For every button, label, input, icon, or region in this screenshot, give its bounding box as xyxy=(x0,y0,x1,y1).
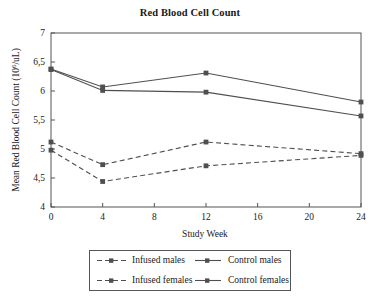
chart-figure: Red Blood Cell Count 04812162024 44,555,… xyxy=(0,0,380,302)
y-axis-title: Mean Red Blood Cell Count (106/uL) xyxy=(10,48,22,192)
svg-text:20: 20 xyxy=(305,212,315,222)
legend-item-infused-females: Infused females xyxy=(90,271,193,291)
x-axis-title: Study Week xyxy=(182,229,228,239)
legend-label: Control females xyxy=(228,276,289,286)
legend-label: Infused males xyxy=(132,256,185,266)
svg-text:5,5: 5,5 xyxy=(33,115,45,125)
legend-swatch-solid xyxy=(193,276,223,285)
svg-text:12: 12 xyxy=(201,212,211,222)
legend-row: Infused males Control males xyxy=(90,251,290,271)
legend-item-control-males: Control males xyxy=(193,251,290,271)
svg-text:7: 7 xyxy=(40,28,45,38)
svg-text:16: 16 xyxy=(253,212,263,222)
legend-label: Infused females xyxy=(132,276,192,286)
svg-text:6,5: 6,5 xyxy=(33,57,45,67)
svg-text:24: 24 xyxy=(356,212,366,222)
legend-swatch-solid xyxy=(193,256,223,265)
legend-row: Infused females Control females xyxy=(90,271,290,291)
svg-text:4: 4 xyxy=(100,212,105,222)
legend-item-control-females: Control females xyxy=(193,271,290,291)
chart-legend: Infused males Control males Infused fema… xyxy=(89,250,291,291)
svg-text:8: 8 xyxy=(152,212,157,222)
legend-swatch-dashed xyxy=(97,256,127,265)
legend-label: Control males xyxy=(228,256,282,266)
x-axis-ticks: 04812162024 xyxy=(49,203,366,222)
svg-text:4: 4 xyxy=(40,202,45,212)
svg-text:5: 5 xyxy=(40,144,45,154)
svg-text:Mean Red Blood Cell Count (106: Mean Red Blood Cell Count (106/uL) xyxy=(10,48,22,192)
legend-swatch-dashed xyxy=(97,276,127,285)
svg-text:6: 6 xyxy=(40,86,45,96)
legend-item-infused-males: Infused males xyxy=(90,251,193,271)
data-series-layer xyxy=(49,67,364,184)
svg-text:0: 0 xyxy=(49,212,54,222)
plot-frame xyxy=(51,33,361,207)
y-axis-ticks: 44,555,566,57 xyxy=(33,28,55,212)
svg-text:4,5: 4,5 xyxy=(33,173,45,183)
